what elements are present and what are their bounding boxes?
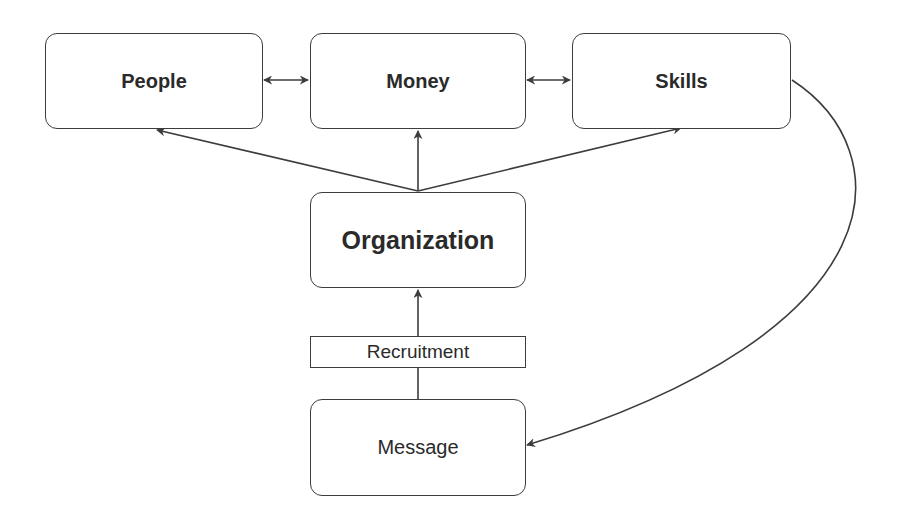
edge-label-recruitment: Recruitment: [310, 336, 526, 368]
node-message-label: Message: [377, 436, 458, 459]
node-organization-label: Organization: [342, 226, 495, 255]
node-skills: Skills: [572, 33, 791, 129]
node-organization: Organization: [310, 192, 526, 288]
node-money: Money: [310, 33, 526, 129]
node-people: People: [45, 33, 263, 129]
edge-organization-skills: [418, 128, 681, 191]
node-people-label: People: [121, 70, 187, 93]
edge-organization-people: [157, 130, 418, 191]
edge-skills-message: [527, 80, 856, 445]
node-message: Message: [310, 399, 526, 496]
node-skills-label: Skills: [655, 70, 707, 93]
recruitment-label: Recruitment: [367, 341, 469, 363]
node-money-label: Money: [386, 70, 449, 93]
